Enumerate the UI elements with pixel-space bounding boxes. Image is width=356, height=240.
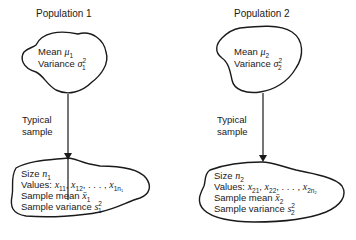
arrow-2-head	[259, 155, 267, 162]
s-subscript: 1	[98, 207, 102, 214]
ellipsis: , . . . ,	[83, 179, 107, 190]
sigma-subscript: 1	[82, 64, 86, 71]
sample-1-variance: Sample variance s21	[21, 201, 102, 213]
sample-variance-label: Sample variance	[21, 201, 92, 212]
sample-mean-label: Sample mean	[21, 190, 80, 201]
sample-1-values: Values: x11, x12, . . . , x1n₁	[21, 179, 123, 191]
arrow-2-label-line1: Typical	[217, 114, 247, 126]
mean-label: Mean	[234, 46, 258, 57]
size-label: Size	[21, 168, 39, 179]
mean-label: Mean	[38, 46, 62, 57]
s-superscript: 2	[291, 202, 295, 209]
variance-label: Variance	[38, 58, 75, 69]
sample-1-size: Size n1	[21, 168, 51, 180]
sample-2-values: Values: x21, x22, . . . , x2n₂	[214, 181, 317, 193]
sigma-superscript: 2	[278, 57, 282, 64]
sample-1-mean: Sample mean x̄1	[21, 190, 90, 202]
population-2-mean: Mean μ2	[234, 46, 269, 58]
population-2-title: Population 2	[234, 8, 290, 20]
population-1-variance: Variance σ21	[38, 58, 86, 70]
sigma-superscript: 2	[82, 57, 86, 64]
sigma-subscript: 2	[278, 64, 282, 71]
sample-variance-label: Sample variance	[214, 203, 285, 214]
population-1-mean: Mean μ1	[38, 46, 73, 58]
sample-2-size: Size n2	[214, 170, 244, 182]
ellipsis: , . . . ,	[276, 181, 300, 192]
sample-2-variance: Sample variance s22	[214, 203, 295, 215]
size-label: Size	[214, 170, 232, 181]
population-1-title: Population 1	[36, 8, 92, 20]
sample-mean-label: Sample mean	[214, 192, 273, 203]
arrow-1-label-line2: sample	[22, 126, 53, 138]
values-label: Values:	[21, 179, 52, 190]
population-2-variance: Variance σ22	[234, 58, 282, 70]
variance-label: Variance	[234, 58, 271, 69]
s-superscript: 2	[98, 200, 102, 207]
value-subscript: 1n₁	[114, 185, 123, 192]
sample-2-mean: Sample mean x̄2	[214, 192, 283, 204]
arrow-1-label-line1: Typical	[22, 114, 52, 126]
value-subscript: 2n₂	[307, 187, 317, 194]
arrow-2-label-line2: sample	[217, 126, 248, 138]
s-subscript: 2	[291, 209, 295, 216]
values-label: Values:	[214, 181, 245, 192]
